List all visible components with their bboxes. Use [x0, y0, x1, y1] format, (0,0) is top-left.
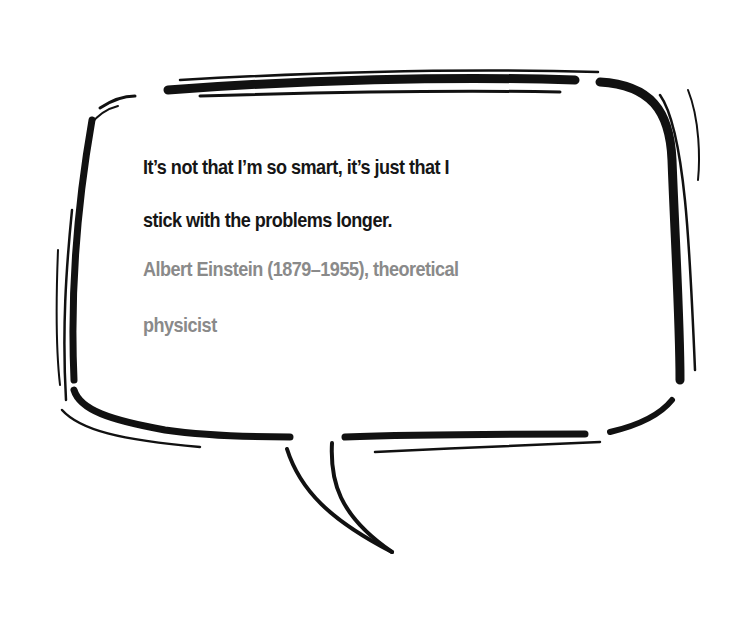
- speech-bubble-icon: [0, 0, 733, 626]
- quote-text-line-1: It’s not that I’m so smart, it’s just th…: [143, 150, 449, 184]
- attribution-line-1: Albert Einstein (1879–1955), theoretical: [143, 252, 459, 286]
- quote-text-line-2: stick with the problems longer.: [143, 203, 392, 237]
- attribution-line-2: physicist: [143, 308, 217, 342]
